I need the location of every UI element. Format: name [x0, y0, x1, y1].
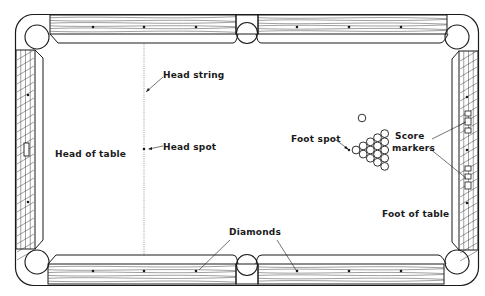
score-marker-lower-b — [465, 174, 471, 179]
racked-ball — [381, 130, 389, 138]
diamond-marker — [92, 26, 95, 29]
head-spot-arrowhead — [148, 147, 152, 150]
racked-ball — [359, 150, 367, 158]
head-spot-dot — [143, 148, 146, 151]
grain-line — [258, 280, 444, 281]
racked-ball — [374, 142, 382, 150]
grain-line — [48, 281, 236, 282]
score-marker-upper-a — [465, 111, 471, 116]
diamond-marker — [27, 201, 30, 204]
grain-line — [258, 267, 444, 268]
racked-ball — [381, 138, 389, 146]
label-foot-of-table: Foot of table — [382, 209, 449, 219]
head-rail-marker — [24, 143, 29, 156]
grain-line — [258, 30, 447, 31]
diamond-marker — [466, 149, 469, 152]
diamond-marker — [400, 270, 403, 273]
diamond-marker — [466, 96, 469, 99]
label-score: Score — [395, 131, 425, 141]
grain-line — [48, 277, 236, 278]
pool-table-diagram: Head string Head spot Head of table Foot… — [0, 0, 485, 296]
side-pocket-top — [237, 23, 258, 44]
score-marker-upper-c — [465, 128, 471, 133]
label-head-string: Head string — [163, 70, 225, 80]
grain-line — [258, 278, 444, 279]
racked-ball — [381, 154, 389, 162]
racked-ball — [374, 158, 382, 166]
grain-line — [50, 20, 236, 21]
diamond-marker — [195, 26, 198, 29]
racked-ball — [374, 150, 382, 158]
diamond-marker — [143, 26, 146, 29]
grain-line — [48, 272, 236, 273]
racked-ball — [381, 163, 389, 171]
top-cushion-right — [256, 34, 448, 43]
diamond-marker — [296, 26, 299, 29]
side-pocket-bottom — [237, 255, 258, 276]
grain-line — [258, 274, 444, 275]
corner-pocket-bottom-left — [25, 250, 49, 274]
diamond-marker — [348, 26, 351, 29]
racked-ball — [366, 154, 374, 162]
side-pocket-bottom-housing — [236, 264, 258, 284]
label-head-spot: Head spot — [163, 142, 217, 152]
corner-pocket-top-left — [25, 25, 49, 49]
label-markers: markers — [392, 143, 435, 153]
racked-ball — [381, 146, 389, 154]
left-cushion — [35, 50, 43, 249]
score-marker-lower-a — [465, 166, 471, 171]
grain-line — [258, 23, 447, 24]
racked-ball — [366, 146, 374, 154]
grain-line — [258, 25, 447, 26]
racked-ball — [366, 138, 374, 146]
grain-line — [50, 17, 236, 18]
leader-lines — [146, 77, 466, 270]
grain-line — [48, 266, 236, 267]
grain-line — [258, 19, 447, 20]
label-foot-spot: Foot spot — [291, 134, 341, 144]
grain-line — [258, 18, 447, 19]
diamond-marker — [195, 270, 198, 273]
diamond-marker — [296, 270, 299, 273]
grain-line — [48, 270, 236, 271]
score-marker-lower-c — [465, 182, 471, 189]
pool-table-svg: Head string Head spot Head of table Foot… — [0, 0, 485, 296]
diamond-marker — [143, 270, 146, 273]
racked-ball — [352, 146, 360, 154]
side-pocket-top-housing — [236, 15, 258, 34]
grain-line — [258, 272, 444, 273]
corner-pocket-top-right — [445, 25, 469, 49]
diamond-marker — [92, 270, 95, 273]
label-head-of-table: Head of table — [55, 149, 126, 159]
cue-ball — [358, 114, 366, 122]
bottom-cushion-right — [256, 255, 446, 264]
top-cushion-left — [50, 34, 238, 43]
grain-line — [258, 269, 444, 270]
racked-ball — [374, 134, 382, 142]
grain-line — [50, 22, 236, 23]
grain-line — [48, 275, 236, 276]
diamond-marker — [348, 270, 351, 273]
racked-ball — [359, 142, 367, 150]
score-marker-leader-upper — [432, 122, 466, 139]
diamond-marker — [466, 202, 469, 205]
diamond-marker — [400, 26, 403, 29]
grain-line — [50, 31, 236, 32]
label-diamonds: Diamonds — [229, 227, 281, 237]
diamond-marker — [27, 94, 30, 97]
score-marker-upper-b — [465, 118, 471, 125]
right-cushion — [452, 51, 459, 250]
ball-rack — [352, 130, 389, 171]
grain-line — [258, 28, 447, 29]
corner-pocket-bottom-right — [445, 250, 469, 274]
